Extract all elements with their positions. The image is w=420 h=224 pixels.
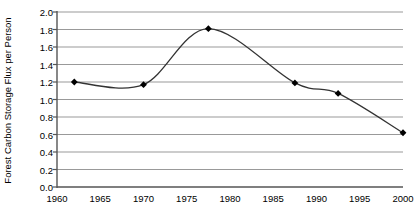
x-tick-1995: 1995	[349, 193, 370, 204]
x-tick-1960: 1960	[46, 193, 67, 204]
x-tick-1970: 1970	[133, 193, 154, 204]
y-axis-line	[53, 11, 57, 188]
plot-svg	[0, 0, 420, 224]
x-tick-1985: 1985	[263, 193, 284, 204]
x-tick-2000: 2000	[392, 193, 413, 204]
chart-figure: Forest Carbon Storage Flux per Person 0.…	[0, 0, 420, 224]
x-tick-1980: 1980	[219, 193, 240, 204]
data-point-marker	[335, 90, 342, 97]
data-point-marker	[400, 129, 407, 136]
data-point-marker	[71, 79, 78, 86]
x-tick-1990: 1990	[306, 193, 327, 204]
x-tick-1975: 1975	[176, 193, 197, 204]
data-point-marker	[291, 79, 298, 86]
x-tick-1965: 1965	[90, 193, 111, 204]
data-point-marker	[205, 25, 212, 32]
